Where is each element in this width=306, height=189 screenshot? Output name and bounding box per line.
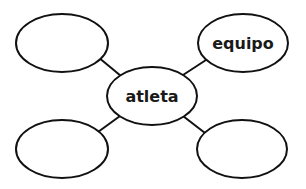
node-label-top-right: equipo (212, 34, 274, 53)
connector-bottom-left (98, 116, 120, 132)
connector-top-right (183, 60, 206, 75)
connector-bottom-right (183, 116, 205, 133)
node-ellipse-top-left (16, 14, 108, 72)
node-bottom-left (16, 120, 108, 178)
node-top-left (16, 14, 108, 72)
word-web-diagram: equipo atleta (0, 0, 306, 189)
connector-top-left (98, 57, 121, 76)
node-top-right: equipo (198, 14, 288, 72)
node-ellipse-bottom-right (197, 120, 287, 178)
node-ellipse-bottom-left (16, 120, 108, 178)
node-center: atleta (107, 67, 197, 125)
node-bottom-right (197, 120, 287, 178)
node-label-center: atleta (125, 87, 178, 106)
